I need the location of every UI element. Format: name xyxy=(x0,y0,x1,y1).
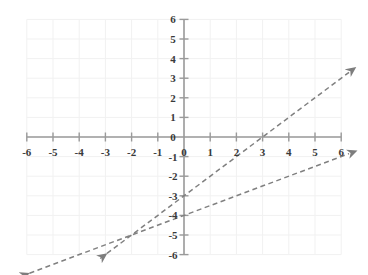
x-tick-label: -4 xyxy=(75,146,85,158)
x-tick-label: 5 xyxy=(312,146,318,158)
y-tick-label: 2 xyxy=(170,92,176,104)
y-tick-label: 6 xyxy=(170,13,176,25)
y-tick-label: -2 xyxy=(168,170,178,182)
x-tick-label: -3 xyxy=(101,146,111,158)
y-tick-label: -6 xyxy=(168,249,178,261)
y-tick-label: 0 xyxy=(170,131,176,143)
y-tick-label: -5 xyxy=(168,229,178,241)
y-tick-label: -1 xyxy=(168,151,177,163)
x-tick-label: -2 xyxy=(127,146,137,158)
x-tick-label: -1 xyxy=(153,146,162,158)
graph-canvas: -6-5-4-3-2-10123456 -6-5-4-3-2-10123456 xyxy=(0,0,368,275)
x-tick-label: 0 xyxy=(181,146,187,158)
coordinate-plane-graph: -6-5-4-3-2-10123456 -6-5-4-3-2-10123456 xyxy=(0,0,368,275)
x-tick-label: 2 xyxy=(234,146,240,158)
x-tick-label: -6 xyxy=(22,146,32,158)
x-tick-label: 1 xyxy=(207,146,213,158)
x-tick-label: 3 xyxy=(260,146,266,158)
y-tick-label: 4 xyxy=(170,53,176,65)
x-tick-label: 4 xyxy=(286,146,292,158)
y-tick-label: 5 xyxy=(170,33,176,45)
y-tick-label: 3 xyxy=(170,72,176,84)
y-tick-label: -4 xyxy=(168,209,178,221)
x-tick-label: -5 xyxy=(48,146,58,158)
y-tick-label: -3 xyxy=(168,190,178,202)
x-tick-label: 6 xyxy=(338,146,344,158)
y-tick-label: 1 xyxy=(170,111,176,123)
